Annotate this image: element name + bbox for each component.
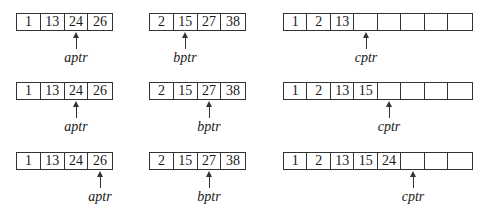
array-cell: 26 (88, 153, 112, 169)
array-cell: 27 (198, 14, 222, 30)
arrow-up-icon (97, 171, 103, 177)
array-cell: 24 (378, 153, 401, 169)
pointer-label: bptr (173, 50, 196, 66)
array-cell: 2 (307, 83, 330, 99)
pointer-label: bptr (197, 119, 220, 135)
array-cell (425, 14, 448, 30)
array-cell: 24 (65, 83, 89, 99)
array-cell: 2 (150, 153, 174, 169)
array-c-step-2: 121315 (283, 82, 473, 100)
array-cell: 2 (150, 83, 174, 99)
array-cell: 15 (174, 14, 198, 30)
array-cell: 24 (65, 14, 89, 30)
array-a-step-1: 1132426 (16, 13, 113, 31)
array-cell: 26 (88, 14, 112, 30)
array-cell: 13 (331, 153, 354, 169)
array-cell: 13 (41, 83, 65, 99)
array-cell (378, 14, 401, 30)
arrow-up-icon (73, 101, 79, 107)
pointer-label: cptr (402, 189, 425, 205)
array-cell: 24 (65, 153, 89, 169)
array-cell: 15 (354, 83, 377, 99)
arrow-up-icon (410, 171, 416, 177)
arrow-up-icon (386, 101, 392, 107)
array-c-step-3: 12131524 (283, 152, 473, 170)
array-cell: 38 (221, 14, 245, 30)
array-cell: 13 (331, 83, 354, 99)
array-cell: 27 (198, 153, 222, 169)
array-cell: 1 (17, 14, 41, 30)
pointer-label: aptr (64, 50, 87, 66)
array-cell: 2 (150, 14, 174, 30)
array-cell: 1 (284, 14, 307, 30)
pointer-label: aptr (64, 119, 87, 135)
array-cell (401, 14, 424, 30)
array-b-step-1: 2152738 (149, 13, 246, 31)
pointer-label: aptr (88, 189, 111, 205)
array-cell: 27 (198, 83, 222, 99)
array-cell (448, 14, 471, 30)
array-a-step-3: 1132426 (16, 152, 113, 170)
array-cell: 2 (307, 153, 330, 169)
array-cell: 13 (41, 14, 65, 30)
array-cell (354, 14, 377, 30)
arrow-up-icon (206, 101, 212, 107)
array-cell: 13 (41, 153, 65, 169)
array-cell: 26 (88, 83, 112, 99)
array-b-step-2: 2152738 (149, 82, 246, 100)
array-cell: 38 (221, 83, 245, 99)
array-cell (425, 153, 448, 169)
pointer-label: bptr (197, 189, 220, 205)
array-c-step-1: 1213 (283, 13, 473, 31)
arrow-up-icon (73, 32, 79, 38)
array-b-step-3: 2152738 (149, 152, 246, 170)
array-a-step-2: 1132426 (16, 82, 113, 100)
pointer-label: cptr (378, 119, 401, 135)
arrow-up-icon (182, 32, 188, 38)
array-cell: 1 (284, 83, 307, 99)
array-cell (401, 83, 424, 99)
arrow-up-icon (363, 32, 369, 38)
array-cell (448, 83, 471, 99)
array-cell: 1 (17, 83, 41, 99)
pointer-label: cptr (355, 50, 378, 66)
array-cell: 2 (307, 14, 330, 30)
array-cell: 15 (174, 153, 198, 169)
array-cell (448, 153, 471, 169)
array-cell (378, 83, 401, 99)
array-cell: 1 (284, 153, 307, 169)
array-cell: 38 (221, 153, 245, 169)
array-cell: 1 (17, 153, 41, 169)
arrow-up-icon (206, 171, 212, 177)
array-cell: 13 (331, 14, 354, 30)
array-cell (425, 83, 448, 99)
array-cell: 15 (354, 153, 377, 169)
array-cell (401, 153, 424, 169)
array-cell: 15 (174, 83, 198, 99)
